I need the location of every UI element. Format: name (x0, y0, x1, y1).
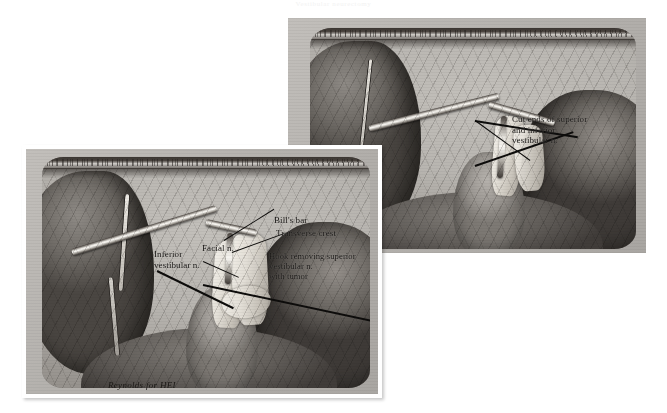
panel-lower-left: Bill's bar Transverse crest Facial n. In… (22, 145, 382, 398)
bills-bar-label: Bill's bar (274, 215, 307, 226)
illustration-figure: Vestibular neurectomy (0, 0, 667, 413)
canal-roof-shadow (310, 39, 636, 49)
transverse-crest-label: Transverse crest (276, 228, 336, 239)
artist-signature: Reynolds for HEI (108, 380, 176, 390)
canal-roof-shadow (42, 168, 370, 178)
inferior-vestibular-label: Inferior vestibular n. (154, 249, 200, 270)
hook-label: Hook removing superior vestibular n. wit… (269, 251, 356, 281)
bone-speckle-texture (310, 30, 636, 37)
cut-ends-label: Cut ends of superior and inferior vestib… (512, 114, 587, 146)
bone-speckle-texture (42, 159, 370, 166)
facial-nerve-label: Facial n. (202, 243, 234, 254)
figure-top-caption: Vestibular neurectomy (0, 0, 667, 8)
